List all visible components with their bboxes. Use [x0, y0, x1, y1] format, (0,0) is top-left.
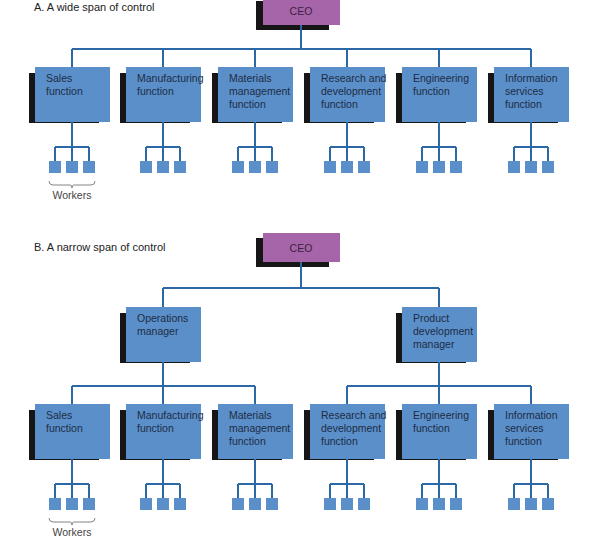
function-box-a-4: Research anddevelopmentfunction [304, 67, 387, 123]
function-box-b-5: Engineeringfunction [396, 404, 477, 460]
worker-square [508, 161, 520, 173]
function-box-a-3-label: function [229, 98, 266, 110]
manager-box-2-label: development [413, 325, 473, 337]
worker-square [140, 498, 152, 510]
worker-square [83, 498, 95, 510]
manager-box-2-label: manager [413, 338, 455, 350]
worker-square [266, 161, 278, 173]
worker-square [249, 498, 261, 510]
function-box-a-3: Materialsmanagementfunction [212, 67, 293, 123]
worker-square [525, 498, 537, 510]
worker-square [433, 161, 445, 173]
worker-square [525, 161, 537, 173]
function-box-b-3: Materialsmanagementfunction [212, 404, 293, 460]
function-box-a-4-label: development [321, 85, 381, 97]
function-box-b-2: Manufacturingfunction [120, 404, 204, 460]
function-box-b-1-label: Sales [46, 409, 72, 421]
function-box-a-4-label: function [321, 98, 358, 110]
worker-square [542, 498, 554, 510]
worker-square [140, 161, 152, 173]
worker-square [266, 498, 278, 510]
function-box-a-2-label: Manufacturing [137, 72, 204, 84]
manager-box-1-label: manager [137, 325, 179, 337]
function-box-b-3-label: management [229, 422, 290, 434]
worker-square [433, 498, 445, 510]
worker-square [416, 161, 428, 173]
worker-square [66, 498, 78, 510]
workers-annotation-b-brace [49, 518, 95, 525]
workers-annotation-b-label: Workers [53, 526, 92, 538]
ceo-box-a-label: CEO [290, 5, 313, 17]
function-box-b-6: Informationservicesfunction [488, 404, 569, 460]
function-box-b-2-label: Manufacturing [137, 409, 204, 421]
ceo-box-a: CEO [256, 0, 340, 30]
worker-square [83, 161, 95, 173]
function-box-a-1: Salesfunction [29, 67, 110, 123]
worker-square [324, 161, 336, 173]
worker-square [49, 498, 61, 510]
manager-box-2: Productdevelopmentmanager [396, 307, 477, 363]
function-box-a-3-label: Materials [229, 72, 272, 84]
ceo-box-b: CEO [256, 233, 340, 267]
worker-square [174, 161, 186, 173]
manager-box-1: Operationsmanager [120, 307, 201, 363]
worker-square [416, 498, 428, 510]
worker-square [341, 161, 353, 173]
function-box-b-4-label: function [321, 435, 358, 447]
function-box-b-4-label: Research and [321, 409, 387, 421]
manager-box-2-label: Product [413, 312, 449, 324]
worker-square [157, 498, 169, 510]
worker-square [542, 161, 554, 173]
function-box-b-5-label: function [413, 422, 450, 434]
worker-square [324, 498, 336, 510]
worker-square [341, 498, 353, 510]
worker-square [232, 161, 244, 173]
worker-square [450, 498, 462, 510]
worker-square [174, 498, 186, 510]
workers-annotation-a-brace [49, 181, 95, 188]
org-chart-diagram: CEOSalesfunctionManufacturingfunctionMat… [0, 0, 601, 554]
function-box-a-4-label: Research and [321, 72, 387, 84]
worker-square [249, 161, 261, 173]
function-box-a-1-label: function [46, 85, 83, 97]
function-box-a-5-label: Engineering [413, 72, 469, 84]
worker-square [358, 498, 370, 510]
function-box-a-6: Informationservicesfunction [488, 67, 569, 123]
function-box-a-5-label: function [413, 85, 450, 97]
worker-square [49, 161, 61, 173]
function-box-b-2-label: function [137, 422, 174, 434]
function-box-a-2: Manufacturingfunction [120, 67, 204, 123]
worker-square [66, 161, 78, 173]
worker-square [232, 498, 244, 510]
function-box-b-6-label: services [505, 422, 544, 434]
function-box-b-3-label: Materials [229, 409, 272, 421]
function-box-b-1: Salesfunction [29, 404, 110, 460]
function-box-a-2-label: function [137, 85, 174, 97]
function-box-b-3-label: function [229, 435, 266, 447]
function-box-b-4: Research anddevelopmentfunction [304, 404, 387, 460]
function-box-a-6-label: function [505, 98, 542, 110]
function-box-b-6-label: function [505, 435, 542, 447]
worker-square [508, 498, 520, 510]
function-box-a-6-label: Information [505, 72, 558, 84]
function-box-a-5: Engineeringfunction [396, 67, 477, 123]
function-box-a-3-label: management [229, 85, 290, 97]
manager-box-1-label: Operations [137, 312, 188, 324]
ceo-box-b-label: CEO [290, 242, 313, 254]
function-box-b-1-label: function [46, 422, 83, 434]
worker-square [157, 161, 169, 173]
function-box-b-4-label: development [321, 422, 381, 434]
function-box-b-6-label: Information [505, 409, 558, 421]
function-box-b-5-label: Engineering [413, 409, 469, 421]
function-box-a-6-label: services [505, 85, 544, 97]
worker-square [358, 161, 370, 173]
worker-square [450, 161, 462, 173]
workers-annotation-a-label: Workers [53, 189, 92, 201]
function-box-a-1-label: Sales [46, 72, 72, 84]
